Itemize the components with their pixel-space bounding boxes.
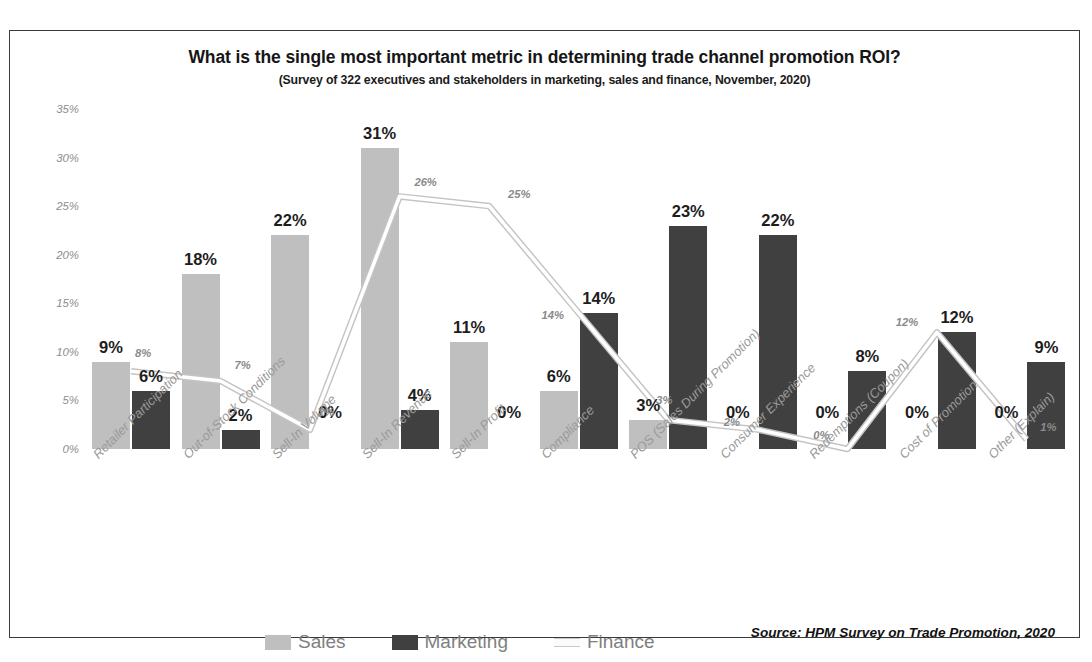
bar-label-sales: 22% (274, 211, 307, 230)
bar-label-marketing: 22% (761, 211, 794, 230)
y-axis-tick: 20% (56, 249, 79, 261)
x-axis: Retailer ParticipationOut-of-Stock Condi… (88, 451, 1073, 621)
bar-label-sales: 18% (184, 250, 217, 269)
bar-label-marketing: 12% (940, 308, 973, 327)
legend-swatch-finance-icon (554, 638, 580, 647)
line-label-finance: 26% (414, 176, 436, 188)
legend-label: Marketing (425, 631, 508, 653)
bar-label-marketing: 9% (1035, 338, 1059, 357)
y-axis-tick: 35% (56, 103, 79, 115)
chart-frame: What is the single most important metric… (9, 30, 1080, 638)
legend-swatch-marketing-icon (392, 635, 418, 650)
bar-label-sales: 0% (815, 403, 839, 422)
legend-label: Sales (298, 631, 346, 653)
line-label-finance: 3% (656, 394, 672, 406)
line-label-finance: 12% (896, 316, 918, 328)
y-axis-tick: 10% (56, 346, 79, 358)
bar-label-sales: 9% (99, 338, 123, 357)
y-axis-tick: 0% (63, 443, 79, 455)
bar-label-sales: 0% (995, 403, 1019, 422)
line-label-finance: 8% (135, 347, 151, 359)
line-label-finance: 14% (542, 309, 564, 321)
legend-item-finance[interactable]: Finance (554, 631, 655, 653)
bar-label-marketing: 14% (582, 289, 615, 308)
bar-label-marketing: 23% (672, 202, 705, 221)
legend-label: Finance (587, 631, 655, 653)
y-axis-tick: 30% (56, 152, 79, 164)
y-axis-tick: 15% (56, 297, 79, 309)
legend-item-sales[interactable]: Sales (265, 631, 346, 653)
line-label-finance: 7% (234, 359, 250, 371)
bar-label-sales: 0% (905, 403, 929, 422)
chart-title: What is the single most important metric… (10, 47, 1079, 68)
y-axis-tick: 5% (63, 394, 79, 406)
bar-label-sales: 11% (453, 318, 485, 337)
line-label-finance: 2% (724, 416, 740, 428)
legend-swatch-sales-icon (265, 635, 291, 650)
chart-subtitle: (Survey of 322 executives and stakeholde… (10, 73, 1079, 87)
line-label-finance: 25% (508, 188, 530, 200)
y-axis-tick: 25% (56, 200, 79, 212)
legend-item-marketing[interactable]: Marketing (392, 631, 508, 653)
source-note: Source: HPM Survey on Trade Promotion, 2… (751, 625, 1055, 640)
bar-label-sales: 31% (363, 124, 396, 143)
bar-label-marketing: 8% (855, 347, 879, 366)
bar-label-sales: 6% (547, 367, 571, 386)
line-label-finance: 1% (1040, 421, 1056, 433)
chart-legend: SalesMarketingFinance (265, 631, 655, 653)
